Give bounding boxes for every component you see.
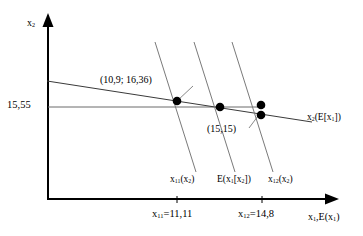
x-axis-label-part2: ,E(x <box>316 211 333 222</box>
data-point-right-lower <box>257 111 266 120</box>
y-axis-label: x2 <box>27 18 35 28</box>
annotation-point-b: (15,15) <box>207 124 236 134</box>
ex1-label-part3: ]) <box>245 174 251 184</box>
x-axis-arrowhead <box>325 194 339 205</box>
x-axis-label: x1,E(x1) <box>308 212 339 222</box>
curve-label-x12-of-x2: x12(x2) <box>268 175 293 185</box>
y-tick-label-15-55: 15,55 <box>7 100 31 111</box>
curve-label-expected-x1-given-x2: E(x1[x2]) <box>217 175 251 185</box>
ex1-label-part2: [x <box>234 174 242 184</box>
annotation-leader-right <box>249 116 258 128</box>
x-axis-label-part3: ) <box>336 211 339 222</box>
data-point-middle <box>216 103 225 112</box>
data-point-left <box>173 97 182 106</box>
annotation-point-a: (10,9; 16,36) <box>100 75 152 85</box>
curve-label-x2-of-expected-x1: x2(E[x1]) <box>307 113 341 123</box>
ex1-label-part1: E(x <box>217 174 231 184</box>
x11-tick-suffix: =11,11 <box>164 208 193 219</box>
x12-label-part2: (x <box>279 174 287 184</box>
curve-label-x11-of-x2: x11(x2) <box>170 175 194 185</box>
reaction-label-part3: ]) <box>335 112 341 122</box>
x12-tick-suffix: =14,8 <box>250 208 274 219</box>
data-point-right-upper <box>257 101 266 110</box>
x11-label-part3: ) <box>191 174 194 184</box>
x12-label-part3: ) <box>289 174 292 184</box>
y-axis-arrowhead <box>43 13 54 27</box>
y-axis-label-subscript: 2 <box>32 21 35 28</box>
reaction-label-part2: (E[x <box>315 112 332 122</box>
economics-diagram: x2 15,55 (10,9; 16,36) (15,15) x2(E[x1])… <box>0 0 363 236</box>
x-tick-label-x12: x12=14,8 <box>238 209 274 220</box>
x-tick-label-x11: x11=11,11 <box>152 209 192 220</box>
x-axis <box>47 194 339 205</box>
